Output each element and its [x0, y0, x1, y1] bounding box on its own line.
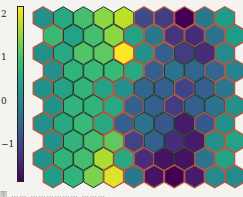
hex-cell [205, 165, 225, 188]
hex-cell [124, 165, 144, 188]
hex-grid [0, 0, 243, 197]
som-hex-heatmap-figure: 210−1 图 …… ……………… ……… [0, 0, 243, 197]
hex-cell [64, 165, 84, 188]
hex-cell [165, 165, 185, 188]
hex-cell [84, 165, 104, 188]
hex-cell [225, 165, 243, 188]
hex-cell [185, 165, 205, 188]
hex-cell [144, 165, 164, 188]
hex-cell [43, 165, 63, 188]
figure-caption: 图 …… ……………… ……… [0, 189, 243, 197]
hex-cell [104, 165, 124, 188]
